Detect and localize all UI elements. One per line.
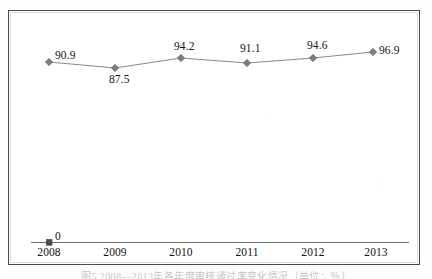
figure-caption: 图5 2008—2013年各年度审核通过率变化情况（单位：％） bbox=[0, 271, 432, 279]
data-label-2013: 96.9 bbox=[379, 45, 400, 57]
x-axis-tick-2012: 2012 bbox=[301, 247, 324, 259]
data-point-marker[interactable] bbox=[369, 48, 377, 56]
data-point-marker[interactable] bbox=[177, 54, 185, 62]
data-point-marker[interactable] bbox=[45, 58, 53, 66]
x-axis-tick-2009: 2009 bbox=[103, 247, 126, 259]
data-label-2012: 94.6 bbox=[307, 40, 328, 52]
data-label-2010: 94.2 bbox=[174, 41, 195, 53]
data-label-zero: 0 bbox=[55, 231, 61, 243]
x-axis-tick-2008: 2008 bbox=[37, 247, 60, 259]
x-axis-tick-2011: 2011 bbox=[236, 247, 259, 259]
chart-frame: 90.9 87.5 94.2 91.1 94.6 96.9 0 2008 200… bbox=[8, 10, 420, 265]
x-axis-tick-2013: 2013 bbox=[364, 247, 387, 259]
series-1-line bbox=[49, 52, 373, 68]
figure-caption-clip: 图5 2008—2013年各年度审核通过率变化情况（单位：％） bbox=[0, 271, 432, 279]
series-2-square-marker[interactable] bbox=[46, 240, 52, 246]
data-label-2009: 87.5 bbox=[109, 74, 130, 86]
x-axis-tick-2010: 2010 bbox=[169, 247, 192, 259]
scanned-page: 90.9 87.5 94.2 91.1 94.6 96.9 0 2008 200… bbox=[0, 0, 432, 279]
data-point-marker[interactable] bbox=[111, 64, 119, 72]
data-point-marker[interactable] bbox=[309, 54, 317, 62]
data-label-2011: 91.1 bbox=[240, 43, 261, 55]
data-label-2008: 90.9 bbox=[55, 50, 76, 62]
data-point-marker[interactable] bbox=[243, 59, 251, 67]
